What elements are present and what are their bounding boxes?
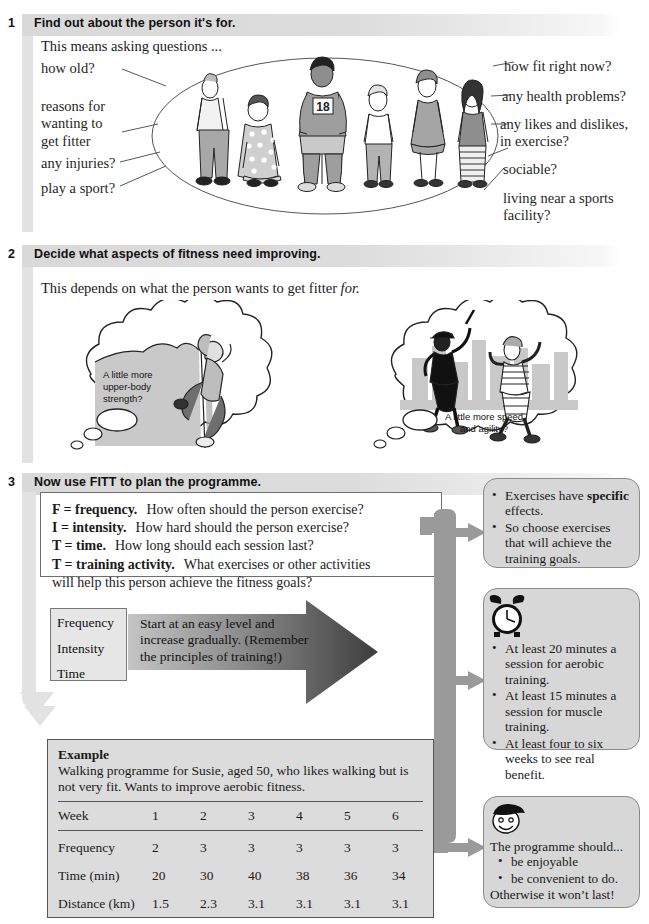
table-row: Frequency 2 3 3 3 3 3: [58, 831, 423, 860]
section-3-number: 3: [8, 475, 15, 489]
cell-time-w5: 36: [344, 859, 392, 887]
fitt-line-frequency: F = frequency.How often should the perso…: [52, 501, 441, 519]
cell-time-w6: 34: [392, 859, 423, 887]
section-1-title: Find out about the person it's for.: [34, 16, 236, 30]
table-row: Time (min) 20 30 40 38 36 34: [58, 859, 423, 887]
svg-text:upper-body: upper-body: [103, 381, 151, 392]
annotation-play-a-sport: play a sport?: [41, 180, 115, 197]
fitt-key-t1: T = time.: [52, 538, 106, 553]
cell-distance-w6: 3.1: [392, 887, 423, 915]
cell-time-w4: 38: [296, 859, 344, 887]
svg-text:18: 18: [316, 100, 330, 114]
cell-distance-w2: 2.3: [200, 887, 248, 915]
cell-time-w1: 20: [152, 859, 200, 887]
thought-bubble-climber: A little more upper-body strength?: [55, 300, 315, 460]
table-col-4: 4: [296, 802, 344, 831]
programme-table: Week 1 2 3 4 5 6 Frequency 2 3 3 3 3 3: [58, 801, 423, 915]
table-col-1: 1: [152, 802, 200, 831]
example-title: Example: [58, 747, 423, 763]
row-label-frequency: Frequency: [58, 831, 152, 860]
worksheet-page: 1 Find out about the person it's for. Th…: [0, 0, 649, 924]
callout-2-bullet-2: At least 15 minutes a session for muscle…: [490, 688, 631, 734]
table-col-week: Week: [58, 802, 152, 831]
thought-bubble-chase: A little more speed and agility?: [360, 300, 620, 460]
section-2-number: 2: [8, 247, 15, 261]
callout-3-bullet-2: be convenient to do.: [496, 871, 631, 886]
annotation-any-likes-and-dislikes: any likes and dislikes, in exercise?: [500, 116, 628, 151]
fitt-line-intensity: I = intensity.How hard should the person…: [52, 519, 441, 537]
section-1-number: 1: [8, 16, 15, 30]
cell-frequency-w2: 3: [200, 831, 248, 860]
callout-2-bullet-1: At least 20 minutes a session for aerobi…: [490, 641, 631, 687]
fitt-text-i: How hard should the person exercise?: [136, 520, 349, 535]
people-ellipse-illustration: 18: [150, 50, 500, 222]
fitt-text-f: How often should the person exercise?: [146, 502, 363, 517]
section-1-rail: [22, 36, 33, 232]
cell-distance-w4: 3.1: [296, 887, 344, 915]
cell-distance-w3: 3.1: [248, 887, 296, 915]
callout-connector-arrows: [420, 495, 490, 890]
section-2-intro: This depends on what the person wants to…: [41, 280, 360, 298]
cell-frequency-w4: 3: [296, 831, 344, 860]
fitt-key-i: I = intensity.: [52, 520, 127, 535]
section-2-intro-plain: This depends on what the person wants to…: [41, 280, 341, 296]
alarm-clock-icon: [484, 589, 639, 638]
callout-3-intro: The programme should...: [484, 837, 639, 854]
svg-text:and agility?: and agility?: [460, 423, 508, 434]
cell-time-w3: 40: [248, 859, 296, 887]
callout-programme-should: The programme should... be enjoyable be …: [483, 796, 640, 908]
cell-distance-w5: 3.1: [344, 887, 392, 915]
cell-distance-w1: 1.5: [152, 887, 200, 915]
callout-3-bullet-1: be enjoyable: [496, 854, 631, 869]
progression-arrow-text: Start at an easy level and increase grad…: [140, 616, 315, 665]
smiley-face-icon: [484, 797, 639, 837]
example-description: Walking programme for Susie, aged 50, wh…: [58, 763, 423, 801]
annotation-any-injuries: any injuries?: [41, 155, 116, 172]
fitt-definition-box: F = frequency.How often should the perso…: [40, 492, 442, 577]
callout-1-bullet-2: So choose exercises that will achieve th…: [490, 520, 631, 566]
svg-text:strength?: strength?: [103, 393, 143, 404]
section-3-title: Now use FITT to plan the programme.: [34, 475, 261, 489]
fitt-line-training-activity: T = training activity.What exercises or …: [52, 556, 441, 574]
fitt-line-time: T = time.How long should each session la…: [52, 537, 441, 555]
fit-item-time: Time: [51, 655, 126, 681]
callout-3-outro: Otherwise it won’t last!: [484, 887, 639, 902]
section-2-intro-italic: for.: [341, 280, 360, 296]
annotation-how-fit-right-now: how fit right now?: [504, 58, 612, 75]
fitt-text-t1: How long should each session last?: [115, 538, 314, 553]
cell-frequency-w6: 3: [392, 831, 423, 860]
callout-1-bold-word: specific: [587, 488, 629, 503]
cell-time-w2: 30: [200, 859, 248, 887]
callout-specific-effects: Exercises have specific effects. So choo…: [483, 478, 640, 568]
table-row: Distance (km) 1.5 2.3 3.1 3.1 3.1 3.1: [58, 887, 423, 915]
callout-2-bullet-3: At least four to six weeks to see real b…: [490, 736, 631, 782]
cell-frequency-w5: 3: [344, 831, 392, 860]
fit-summary-box: Frequency Intensity Time: [50, 608, 127, 681]
annotation-sociable: sociable?: [503, 161, 557, 178]
cell-frequency-w3: 3: [248, 831, 296, 860]
fitt-text-t2: What exercises or other activities: [184, 557, 371, 572]
section-2-rail: [22, 267, 33, 463]
table-col-6: 6: [392, 802, 423, 831]
example-programme-box: Example Walking programme for Susie, age…: [47, 739, 434, 918]
row-label-distance: Distance (km): [58, 887, 152, 915]
callout-minimum-durations: At least 20 minutes a session for aerobi…: [483, 588, 640, 750]
section-2-title: Decide what aspects of fitness need impr…: [34, 247, 321, 261]
annotation-any-health-problems: any health problems?: [502, 88, 626, 105]
fit-item-intensity: Intensity: [51, 630, 126, 656]
fitt-tail: will help this person achieve the fitnes…: [52, 574, 441, 592]
svg-text:A little more speed: A little more speed: [445, 411, 523, 422]
callout-1-bullet-1: Exercises have specific effects.: [490, 488, 631, 519]
annotation-reasons-for-wanting-to-get-fitter: reasons for wanting to get fitter: [41, 98, 105, 150]
annotation-living-near-sports-facility: living near a sports facility?: [503, 190, 614, 225]
cell-frequency-w1: 2: [152, 831, 200, 860]
table-col-5: 5: [344, 802, 392, 831]
table-header-row: Week 1 2 3 4 5 6: [58, 802, 423, 831]
row-label-time: Time (min): [58, 859, 152, 887]
fit-item-frequency: Frequency: [51, 609, 126, 630]
fitt-key-f: F = frequency.: [52, 502, 137, 517]
svg-text:A little more: A little more: [103, 369, 153, 380]
fitt-key-t2: T = training activity.: [52, 557, 175, 572]
annotation-how-old: how old?: [41, 60, 95, 77]
table-col-3: 3: [248, 802, 296, 831]
